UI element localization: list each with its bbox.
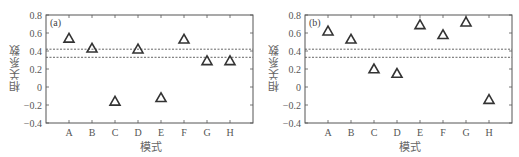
x-axis-label-b: 模式: [399, 138, 421, 154]
data-point-triangle-icon: [392, 69, 402, 78]
scatter-plot-a: −0.4−0.200.20.40.60.8ABCDEFGH: [0, 0, 259, 157]
scatter-plot-b: −0.4−0.200.20.40.60.8ABCDEFGH: [259, 0, 518, 157]
data-point-triangle-icon: [87, 43, 97, 52]
x-axis-label-a: 模式: [140, 138, 162, 154]
data-point-triangle-icon: [179, 34, 189, 43]
x-tick-label: H: [226, 127, 233, 138]
y-tick-label: −0.2: [283, 100, 301, 111]
x-tick-label: E: [158, 127, 164, 138]
x-tick-label: D: [393, 127, 400, 138]
y-tick-label: 0.2: [30, 64, 43, 75]
y-tick-label: 0: [296, 82, 301, 93]
data-point-triangle-icon: [369, 64, 379, 73]
data-point-triangle-icon: [438, 30, 448, 39]
x-tick-label: B: [89, 127, 96, 138]
data-point-triangle-icon: [461, 17, 471, 26]
y-tick-label: −0.4: [24, 118, 42, 129]
panel-tag-b: (b): [309, 17, 321, 28]
y-axis-label-a: 相关系数: [8, 44, 24, 92]
axes-frame: [305, 15, 512, 123]
y-tick-label: 0.8: [30, 10, 43, 21]
y-tick-label: 0.6: [289, 28, 302, 39]
data-point-triangle-icon: [156, 93, 166, 102]
data-point-triangle-icon: [133, 44, 143, 53]
chart-panel-a: −0.4−0.200.20.40.60.8ABCDEFGH (a) 相关系数 模…: [0, 0, 259, 157]
x-tick-label: E: [417, 127, 423, 138]
data-point-triangle-icon: [346, 34, 356, 43]
y-tick-label: 0.8: [289, 10, 302, 21]
data-point-triangle-icon: [110, 96, 120, 105]
y-tick-label: 0.2: [289, 64, 302, 75]
data-point-triangle-icon: [484, 95, 494, 104]
x-tick-label: G: [203, 127, 210, 138]
x-tick-label: A: [324, 127, 332, 138]
chart-panel-b: −0.4−0.200.20.40.60.8ABCDEFGH (b) 相关系数 模…: [259, 0, 518, 157]
data-point-triangle-icon: [415, 20, 425, 29]
y-tick-label: −0.4: [283, 118, 301, 129]
y-axis-label-b: 相关系数: [267, 44, 283, 92]
y-tick-label: 0: [37, 82, 42, 93]
x-tick-label: C: [371, 127, 378, 138]
y-tick-label: 0.4: [289, 46, 302, 57]
y-tick-label: −0.2: [24, 100, 42, 111]
y-tick-label: 0.4: [30, 46, 43, 57]
x-tick-label: A: [65, 127, 73, 138]
data-point-triangle-icon: [323, 26, 333, 35]
x-tick-label: C: [112, 127, 119, 138]
axes-frame: [46, 15, 253, 123]
x-tick-label: B: [348, 127, 355, 138]
panel-tag-a: (a): [50, 17, 61, 28]
y-tick-label: 0.6: [30, 28, 43, 39]
x-tick-label: F: [440, 127, 446, 138]
data-point-triangle-icon: [64, 33, 74, 42]
x-tick-label: D: [134, 127, 141, 138]
x-tick-label: G: [462, 127, 469, 138]
x-tick-label: H: [485, 127, 492, 138]
x-tick-label: F: [181, 127, 187, 138]
